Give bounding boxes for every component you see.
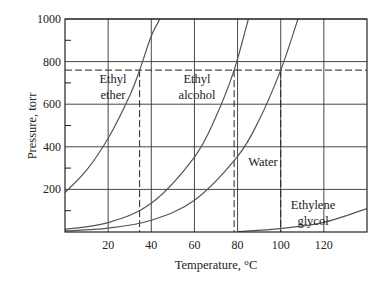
x-tick-label: 120 [315, 238, 333, 252]
vapor-pressure-chart: 200400600800100020406080100120 Ethylethe… [0, 0, 385, 281]
y-tick-label: 600 [43, 97, 61, 111]
curve-water [65, 19, 298, 231]
x-tick-label: 100 [272, 238, 290, 252]
curve-label: Ethylene [291, 198, 336, 212]
curve-labels: EthyletherEthylalcoholWaterEthyleneglyco… [99, 72, 335, 228]
y-axis-title: Pressure, torr [25, 92, 39, 159]
y-tick-label: 400 [43, 140, 61, 154]
curve-label: glycol [297, 214, 329, 228]
x-axis-title: Temperature, °C [175, 258, 258, 272]
x-tick-label: 60 [188, 238, 200, 252]
y-tick-label: 800 [43, 55, 61, 69]
y-tick-label: 200 [43, 182, 61, 196]
curve-ethyl-alcohol [65, 19, 248, 229]
curve-label: Ethyl [99, 72, 127, 86]
curve-label: alcohol [179, 88, 216, 102]
y-tick-label: 1000 [37, 12, 61, 26]
x-tick-label: 80 [232, 238, 244, 252]
curve-label: Ethyl [183, 72, 211, 86]
curve-label: Water [248, 155, 278, 169]
curve-ethyl-ether [65, 19, 160, 193]
x-tick-label: 40 [145, 238, 157, 252]
x-tick-label: 20 [102, 238, 114, 252]
curve-label: ether [101, 88, 127, 102]
